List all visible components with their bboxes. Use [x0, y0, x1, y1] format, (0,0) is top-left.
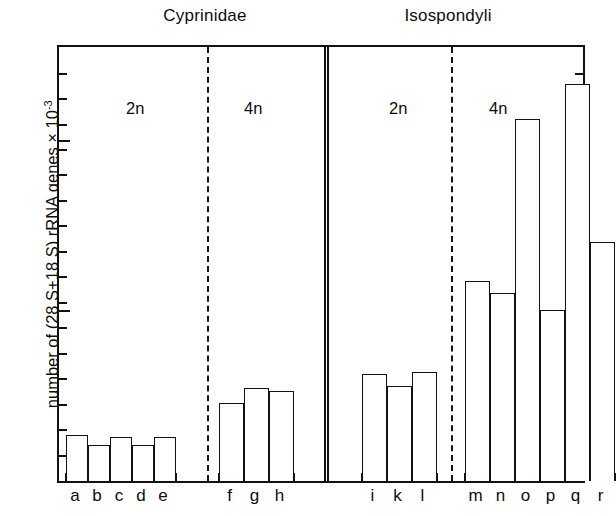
- y-tick-left-0.3: [59, 429, 67, 431]
- separator-double-families: [324, 47, 329, 481]
- x-axis-label-r: r: [598, 486, 604, 506]
- x-tick-group-start-0: [65, 473, 67, 481]
- y-tick-left-1.05: [59, 302, 67, 304]
- x-axis-label-l: l: [421, 486, 425, 506]
- bar-g: [244, 388, 269, 481]
- x-tick-group-start-2: [361, 473, 363, 481]
- y-tick-left-0.9: [59, 327, 67, 329]
- ploidy-label-4: 2n: [389, 99, 407, 118]
- x-tick-group-start-1: [218, 473, 220, 481]
- y-tick-left-1.35: [59, 251, 67, 253]
- bar-q: [565, 84, 590, 481]
- x-tick-group-start-3: [464, 473, 466, 481]
- y-tick-major-left-2: [59, 140, 70, 142]
- bar-e: [154, 437, 176, 481]
- bar-l: [412, 372, 437, 481]
- y-tick-right-2.4: [575, 73, 583, 75]
- x-axis-label-e: e: [158, 486, 167, 506]
- plot-area: 122n4n2n4n: [57, 45, 585, 483]
- x-axis-label-g: g: [250, 486, 259, 506]
- bar-h: [269, 391, 294, 481]
- ploidy-label-2: 2n: [126, 99, 144, 118]
- bar-i: [362, 374, 387, 481]
- bar-c: [110, 437, 132, 481]
- y-tick-left-1.8: [59, 174, 67, 176]
- bar-k: [387, 386, 412, 481]
- x-axis-label-d: d: [136, 486, 145, 506]
- x-axis-label-i: i: [371, 486, 375, 506]
- x-axis-label-h: h: [275, 486, 284, 506]
- x-axis-label-a: a: [70, 486, 79, 506]
- x-axis-label-o: o: [521, 486, 530, 506]
- x-tick-h: [293, 473, 295, 481]
- x-axis-label-c: c: [115, 486, 124, 506]
- y-tick-left-1.5: [59, 225, 67, 227]
- x-axis-label-f: f: [227, 486, 232, 506]
- bar-r: [590, 242, 615, 481]
- x-axis-label-q: q: [571, 486, 580, 506]
- plot-inner: 122n4n2n4n: [59, 47, 583, 481]
- x-axis-labels: abcdefghiklmnopqr: [57, 486, 585, 516]
- separator-dashed-cyprinidae: [207, 47, 209, 481]
- bar-p: [540, 310, 565, 481]
- y-tick-left-2.1: [59, 124, 67, 126]
- ploidy-label-5: 4n: [489, 99, 507, 118]
- bar-b: [88, 445, 110, 481]
- separator-dashed-isospondyli: [451, 47, 453, 481]
- group-heading-isospondyli: Isospondyli: [404, 6, 491, 26]
- x-axis-label-b: b: [92, 486, 101, 506]
- y-tick-left-1.95: [59, 149, 67, 151]
- y-tick-left-0.6: [59, 378, 67, 380]
- y-tick-left-1.2: [59, 276, 67, 278]
- x-axis-label-p: p: [546, 486, 555, 506]
- bar-m: [465, 281, 490, 481]
- x-tick-l: [436, 473, 438, 481]
- x-axis-label-m: m: [468, 486, 482, 506]
- bar-a: [66, 435, 88, 481]
- y-tick-left-2.25: [59, 98, 67, 100]
- ploidy-label-3: 4n: [244, 99, 262, 118]
- bar-f: [219, 403, 244, 481]
- group-heading-cyprinidae: Cyprinidae: [163, 6, 246, 26]
- bar-n: [490, 293, 515, 481]
- x-axis-label-n: n: [496, 486, 505, 506]
- x-axis-label-k: k: [393, 486, 402, 506]
- y-tick-left-2.4: [59, 73, 67, 75]
- y-axis-label-exponent: -3: [42, 100, 54, 110]
- x-tick-e: [175, 473, 177, 481]
- y-tick-major-left-1: [59, 310, 70, 312]
- bar-o: [515, 119, 540, 481]
- y-tick-left-1.65: [59, 200, 67, 202]
- y-tick-left-0.45: [59, 404, 67, 406]
- bar-d: [132, 445, 154, 481]
- y-tick-left-0.75: [59, 353, 67, 355]
